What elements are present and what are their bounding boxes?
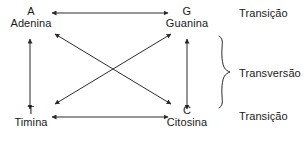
node-citosina: C Citosina <box>160 105 214 129</box>
label-transition-bottom: Transição <box>239 110 288 122</box>
node-adenina-name: Adenina <box>4 18 58 30</box>
label-transition-top: Transição <box>239 7 288 19</box>
node-timina-name: Timina <box>4 117 58 129</box>
node-timina: T Timina <box>4 105 58 129</box>
node-adenina: A Adenina <box>4 6 58 30</box>
node-citosina-name: Citosina <box>160 117 214 129</box>
node-guanina-name: Guanina <box>160 18 214 30</box>
mutation-diagram-canvas: A Adenina G Guanina T Timina C Citosina … <box>0 0 304 149</box>
node-guanina: G Guanina <box>160 6 214 30</box>
transversion-brace <box>219 36 230 108</box>
label-transversion: Transversão <box>239 67 301 79</box>
